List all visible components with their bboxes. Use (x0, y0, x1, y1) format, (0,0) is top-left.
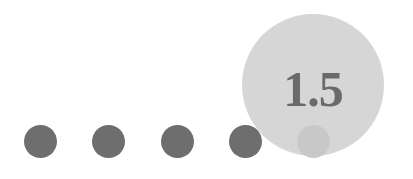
slider-step-3[interactable] (161, 125, 194, 158)
slider-thumb[interactable] (297, 125, 330, 158)
slider-step-2[interactable] (92, 125, 125, 158)
slider-step-1[interactable] (24, 125, 57, 158)
value-label: 1.5 (242, 64, 384, 114)
step-slider[interactable]: 1.5 (0, 0, 413, 179)
